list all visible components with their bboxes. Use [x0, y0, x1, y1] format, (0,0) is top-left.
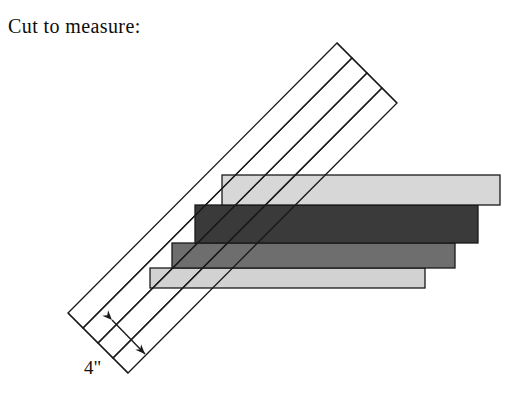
dimension-label: 4": [84, 357, 101, 379]
cut-to-measure-diagram: [0, 0, 529, 406]
figure-root: Cut to measure:: [0, 0, 529, 406]
board-stack: [150, 175, 500, 288]
board-2: [195, 205, 478, 243]
board-1: [222, 175, 500, 205]
strip-width-dimension-arrow: [112, 320, 145, 354]
board-4: [150, 268, 425, 288]
